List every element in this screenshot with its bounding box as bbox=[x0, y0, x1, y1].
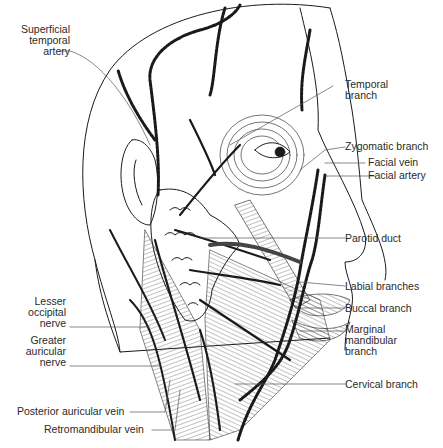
label-labial-branches: Labial branches bbox=[345, 281, 419, 292]
label-buccal-branch: Buccal branch bbox=[345, 303, 412, 314]
label-zygomatic-branch: Zygomatic branch bbox=[345, 141, 428, 152]
anatomy-diagram: Superficial temporal artery Lesser occip… bbox=[0, 0, 443, 448]
label-facial-vein: Facial vein bbox=[368, 157, 418, 168]
label-facial-artery: Facial artery bbox=[368, 170, 426, 181]
label-lesser-occipital-nerve: Lesser occipital nerve bbox=[0, 296, 66, 329]
label-parotid-duct: Parotid duct bbox=[345, 233, 401, 244]
label-temporal-branch: Temporal branch bbox=[345, 79, 388, 101]
label-superficial-temporal-artery: Superficial temporal artery bbox=[0, 24, 70, 57]
label-cervical-branch: Cervical branch bbox=[345, 379, 418, 390]
ear bbox=[121, 140, 158, 225]
label-retromandibular-vein: Retromandibular vein bbox=[44, 424, 144, 435]
label-marginal-mandibular-branch: Marginal mandibular branch bbox=[345, 324, 397, 357]
label-greater-auricular-nerve: Greater auricular nerve bbox=[0, 335, 66, 368]
label-posterior-auricular-vein: Posterior auricular vein bbox=[17, 406, 124, 417]
